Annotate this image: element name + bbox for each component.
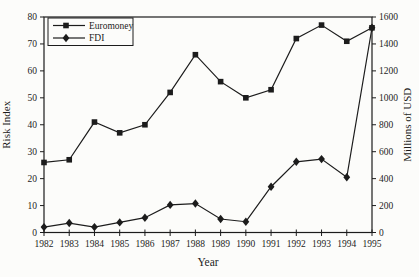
left-axis-title: Risk Index <box>0 100 12 148</box>
left-tick-label: 80 <box>28 12 38 22</box>
x-tick-label: 1984 <box>85 239 104 249</box>
x-axis-title: Year <box>197 256 218 268</box>
square-marker <box>193 52 199 58</box>
x-tick-label: 1995 <box>363 239 382 249</box>
square-marker <box>167 90 173 96</box>
left-tick-label: 70 <box>28 39 38 49</box>
square-marker <box>243 95 249 101</box>
right-axis-title: Millions of USD <box>401 88 413 162</box>
right-tick-label: 1200 <box>379 66 398 76</box>
left-tick-label: 20 <box>28 174 38 184</box>
chart-figure: 0102030405060708002004006008001000120014… <box>0 0 419 277</box>
square-marker <box>92 119 98 125</box>
diamond-marker <box>369 24 376 32</box>
right-tick-label: 0 <box>379 228 384 238</box>
square-marker <box>218 79 224 85</box>
x-tick-label: 1989 <box>211 239 230 249</box>
diamond-marker <box>116 218 123 226</box>
square-marker <box>117 130 123 136</box>
square-marker <box>294 36 300 42</box>
diamond-marker <box>192 199 199 207</box>
square-marker <box>268 87 274 93</box>
left-axis: 01020304050607080 <box>28 12 45 238</box>
x-tick-label: 1992 <box>287 239 306 249</box>
square-marker <box>41 160 47 166</box>
diamond-marker <box>41 223 48 231</box>
square-marker <box>63 23 69 29</box>
left-tick-label: 40 <box>28 120 38 130</box>
x-tick-label: 1991 <box>262 239 281 249</box>
left-tick-label: 0 <box>32 228 37 238</box>
square-marker <box>344 38 350 44</box>
right-tick-label: 1000 <box>379 93 398 103</box>
square-marker <box>142 122 148 128</box>
diamond-marker <box>343 173 350 181</box>
legend: EuromoneyFDI <box>48 18 134 46</box>
diamond-marker <box>217 215 224 223</box>
right-tick-label: 600 <box>379 147 394 157</box>
right-tick-label: 400 <box>379 174 394 184</box>
x-tick-label: 1986 <box>135 239 154 249</box>
left-tick-label: 30 <box>28 147 38 157</box>
x-tick-label: 1985 <box>110 239 129 249</box>
x-tick-label: 1993 <box>312 239 331 249</box>
right-tick-label: 800 <box>379 120 394 130</box>
diamond-marker <box>318 155 325 163</box>
x-tick-label: 1983 <box>60 239 79 249</box>
x-tick-label: 1982 <box>35 239 54 249</box>
diamond-marker <box>142 213 149 221</box>
x-tick-label: 1987 <box>161 239 180 249</box>
right-tick-label: 1400 <box>379 39 398 49</box>
left-tick-label: 60 <box>28 66 38 76</box>
diamond-marker <box>91 223 98 231</box>
dual-axis-line-chart: 0102030405060708002004006008001000120014… <box>0 0 419 277</box>
square-marker <box>66 157 72 163</box>
x-tick-label: 1988 <box>186 239 205 249</box>
right-tick-label: 200 <box>379 201 394 211</box>
series-line <box>44 28 372 227</box>
x-tick-label: 1990 <box>236 239 255 249</box>
diamond-marker <box>167 201 174 209</box>
right-axis: 02004006008001000120014001600 <box>372 12 398 238</box>
square-marker <box>319 22 325 28</box>
diamond-marker <box>66 219 73 227</box>
right-tick-label: 1600 <box>379 12 398 22</box>
left-tick-label: 50 <box>28 93 38 103</box>
legend-label: FDI <box>89 33 104 43</box>
x-tick-label: 1994 <box>337 239 356 249</box>
left-tick-label: 10 <box>28 201 38 211</box>
legend-label: Euromoney <box>89 21 134 31</box>
